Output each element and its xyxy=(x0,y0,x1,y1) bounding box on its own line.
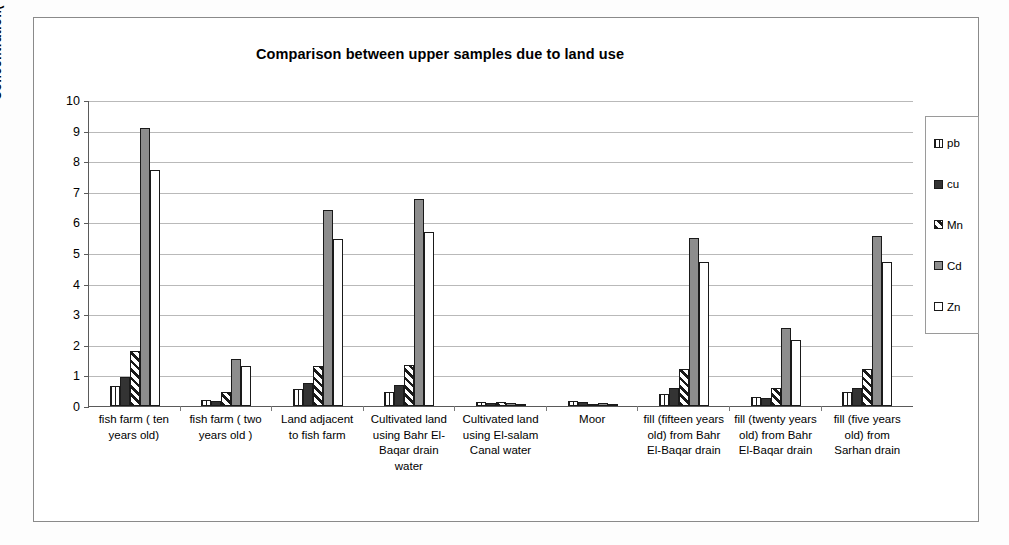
bar-mn[interactable] xyxy=(313,366,323,406)
bar-cd[interactable] xyxy=(414,199,424,406)
bar-group xyxy=(89,101,181,406)
bar-group xyxy=(547,101,639,406)
bar-pb[interactable] xyxy=(659,394,669,406)
y-axis-tick-label: 5 xyxy=(73,247,80,261)
bar-mn[interactable] xyxy=(679,369,689,406)
bar-cu[interactable] xyxy=(303,383,313,406)
legend-swatch-icon xyxy=(934,180,943,189)
bar-pb[interactable] xyxy=(476,402,486,406)
bar-mn[interactable] xyxy=(496,402,506,406)
x-axis-label: Moor xyxy=(546,412,638,474)
bar-cd[interactable] xyxy=(323,210,333,406)
bar-cu[interactable] xyxy=(120,377,130,406)
bar-mn[interactable] xyxy=(862,369,872,406)
y-axis-tick-label: 3 xyxy=(73,308,80,322)
legend-label: Mn xyxy=(947,219,963,231)
bar-pb[interactable] xyxy=(293,389,303,406)
legend-swatch-icon xyxy=(934,220,943,229)
x-axis-label: Land adjacent to fish farm xyxy=(271,412,363,474)
legend-item-pb[interactable]: pb xyxy=(934,137,978,149)
bar-pb[interactable] xyxy=(842,392,852,406)
y-axis-tick-label: 1 xyxy=(73,369,80,383)
bar-zn[interactable] xyxy=(424,232,434,406)
bar-group xyxy=(455,101,547,406)
bar-pb[interactable] xyxy=(110,386,120,406)
bar-mn[interactable] xyxy=(221,392,231,406)
bar-pb[interactable] xyxy=(201,400,211,406)
bar-zn[interactable] xyxy=(791,340,801,406)
legend-label: Cd xyxy=(947,260,962,272)
y-axis-tick-label: 8 xyxy=(73,155,80,169)
x-axis-tick xyxy=(363,406,364,411)
legend-label: Zn xyxy=(947,301,960,313)
bar-cd[interactable] xyxy=(872,236,882,406)
x-axis-tick xyxy=(637,406,638,411)
legend-label: pb xyxy=(947,137,960,149)
legend-item-mn[interactable]: Mn xyxy=(934,219,978,231)
bar-groups xyxy=(89,101,913,406)
x-axis-label: fill (five years old) from Sarhan drain xyxy=(821,412,913,474)
legend-item-cu[interactable]: cu xyxy=(934,178,978,190)
x-axis-tick xyxy=(454,406,455,411)
bar-zn[interactable] xyxy=(241,366,251,406)
bar-cd[interactable] xyxy=(231,359,241,406)
legend-label: cu xyxy=(947,178,959,190)
x-axis-labels: fish farm ( ten years old)fish farm ( tw… xyxy=(88,412,913,474)
bar-cd[interactable] xyxy=(598,403,608,406)
chart-legend: pbcuMnCdZn xyxy=(925,116,979,334)
x-axis-label: fish farm ( two years old ) xyxy=(180,412,272,474)
bar-pb[interactable] xyxy=(384,392,394,406)
bar-cu[interactable] xyxy=(669,388,679,406)
bar-group xyxy=(364,101,456,406)
bar-group xyxy=(638,101,730,406)
bar-cu[interactable] xyxy=(394,385,404,406)
bar-cu[interactable] xyxy=(852,388,862,406)
bar-zn[interactable] xyxy=(608,404,618,406)
bar-cu[interactable] xyxy=(761,398,771,406)
x-axis-tick xyxy=(180,406,181,411)
y-axis-tick xyxy=(84,407,89,408)
legend-item-cd[interactable]: Cd xyxy=(934,260,978,272)
bar-cd[interactable] xyxy=(689,238,699,406)
bar-cu[interactable] xyxy=(486,403,496,406)
bar-group xyxy=(181,101,273,406)
x-axis-tick xyxy=(729,406,730,411)
bar-zn[interactable] xyxy=(150,170,160,406)
legend-swatch-icon xyxy=(934,261,943,270)
bar-zn[interactable] xyxy=(516,404,526,406)
bar-pb[interactable] xyxy=(751,397,761,406)
bar-pb[interactable] xyxy=(568,401,578,407)
bar-zn[interactable] xyxy=(882,262,892,406)
plot-area: 109876543210 xyxy=(88,101,913,407)
bar-mn[interactable] xyxy=(130,351,140,406)
x-axis-tick xyxy=(546,406,547,411)
chart-title: Comparison between upper samples due to … xyxy=(0,46,880,62)
y-axis-tick-label: 7 xyxy=(73,186,80,200)
chart-page: Comparison between upper samples due to … xyxy=(0,0,1009,545)
bar-mn[interactable] xyxy=(588,404,598,406)
x-axis-label: fish farm ( ten years old) xyxy=(88,412,180,474)
legend-swatch-icon xyxy=(934,302,943,311)
x-axis-tick xyxy=(821,406,822,411)
bar-cd[interactable] xyxy=(506,403,516,406)
bar-cd[interactable] xyxy=(781,328,791,406)
bar-mn[interactable] xyxy=(771,388,781,406)
bar-group xyxy=(272,101,364,406)
bar-group xyxy=(822,101,914,406)
y-axis-tick-label: 2 xyxy=(73,339,80,353)
legend-item-zn[interactable]: Zn xyxy=(934,301,978,313)
y-axis-tick-label: 0 xyxy=(73,400,80,414)
legend-swatch-icon xyxy=(934,139,943,148)
bar-cd[interactable] xyxy=(140,128,150,406)
bar-zn[interactable] xyxy=(333,239,343,406)
bar-mn[interactable] xyxy=(404,365,414,406)
x-axis-tick xyxy=(271,406,272,411)
x-axis-label: fill (twenty years old) from Bahr El-Baq… xyxy=(730,412,822,474)
x-axis-label: Cultivated land using Bahr El-Baqar drai… xyxy=(363,412,455,474)
y-axis-tick-label: 10 xyxy=(66,94,80,108)
x-axis-label: fill (fifteen years old) from Bahr El-Ba… xyxy=(638,412,730,474)
bar-cu[interactable] xyxy=(211,401,221,407)
y-axis-tick-label: 4 xyxy=(73,278,80,292)
bar-cu[interactable] xyxy=(578,402,588,406)
bar-zn[interactable] xyxy=(699,262,709,406)
